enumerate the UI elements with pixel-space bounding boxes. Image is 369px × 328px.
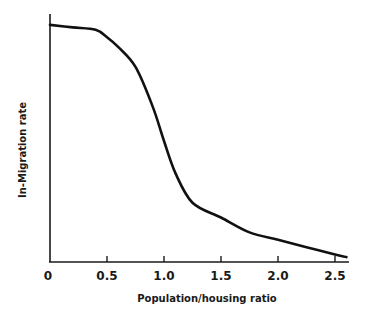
x-tick-label: 1.0	[153, 269, 174, 283]
x-axis-label: Population/housing ratio	[137, 293, 277, 304]
x-ticks	[107, 256, 335, 262]
x-tick-label: 2.5	[324, 269, 345, 283]
chart: 00.51.01.52.02.5 Population/housing rati…	[0, 0, 369, 328]
plot-area: 00.51.01.52.02.5	[44, 14, 349, 283]
x-tick-label: 1.5	[210, 269, 231, 283]
x-tick-label: 2.0	[267, 269, 288, 283]
x-tick-label: 0	[44, 269, 52, 283]
x-tick-labels: 00.51.01.52.02.5	[44, 269, 346, 283]
y-axis-label: In-Migration rate	[17, 102, 28, 198]
data-line	[50, 25, 346, 257]
x-tick-label: 0.5	[96, 269, 117, 283]
